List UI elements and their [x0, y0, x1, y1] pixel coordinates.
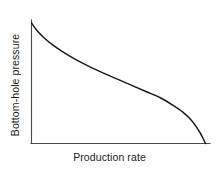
chart-axes — [31, 20, 210, 144]
y-axis-label: Bottom-hole pressure — [10, 0, 24, 170]
x-axis-label: Production rate — [0, 152, 219, 163]
chart-series-group — [32, 23, 206, 144]
chart-plot-area — [0, 0, 219, 170]
chart-figure: Bottom-hole pressure Production rate — [0, 0, 219, 170]
ipr-curve-line — [32, 23, 206, 144]
